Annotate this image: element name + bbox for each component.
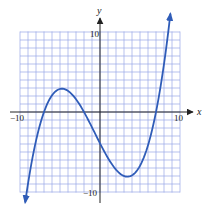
x-tick-label-min: −10: [10, 113, 25, 123]
cubic-function-graph: x y −10 10 10 −10: [0, 0, 209, 209]
y-tick-label-min: −10: [83, 188, 98, 198]
y-tick-label-max: 10: [90, 29, 100, 39]
x-axis-label: x: [196, 106, 202, 117]
cubic-curve: [25, 14, 170, 203]
x-tick-label-max: 10: [174, 113, 184, 123]
y-axis-label: y: [96, 5, 102, 16]
